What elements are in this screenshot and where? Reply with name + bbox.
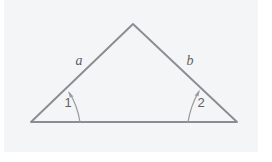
side-label-b: b bbox=[187, 53, 194, 68]
triangle-diagram-canvas: a b 1 2 bbox=[0, 0, 272, 162]
angle-label-2: 2 bbox=[197, 95, 204, 110]
diagram-plate-background bbox=[4, 0, 258, 152]
side-label-a: a bbox=[76, 53, 83, 68]
angle-label-1: 1 bbox=[64, 95, 71, 110]
geometry-figure: a b 1 2 triangle-with-two-marked-base-an… bbox=[0, 0, 272, 162]
